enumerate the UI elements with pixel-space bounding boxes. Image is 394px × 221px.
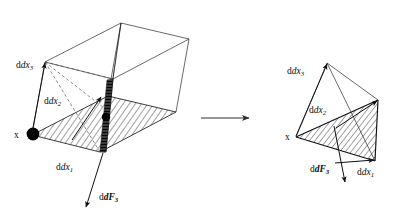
continuum-element-diagram: ddx3 ddx2 x ddx1 ddF3: [0, 0, 394, 221]
face-centroid-marker: [102, 113, 110, 121]
label-position-x-right: x: [285, 132, 290, 142]
canvas-background: [0, 0, 394, 221]
figure-canvas: ddx3 ddx2 x ddx1 ddF3: [0, 0, 394, 221]
label-position-x-left: x: [14, 130, 19, 140]
